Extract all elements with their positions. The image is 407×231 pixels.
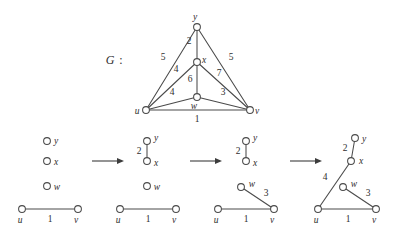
step-4-weight-u-v: 1 <box>346 214 351 224</box>
figure-page: G : <box>0 0 407 231</box>
step-3: 2 3 1 y x w u v <box>214 133 278 225</box>
graph-g: 5 5 2 4 7 6 4 3 1 u v w x <box>135 12 260 124</box>
mst-construction-figure: G : <box>0 0 407 231</box>
step-2-node-y[interactable] <box>144 138 151 145</box>
arrow-3-head <box>315 158 322 164</box>
node-label-v: v <box>255 106 260 116</box>
step-1-nodes <box>19 138 82 213</box>
step-2-nodes <box>117 138 180 213</box>
step-1-node-u[interactable] <box>19 206 26 213</box>
step-4-weight-y-x: 2 <box>343 143 348 153</box>
step-3-node-v[interactable] <box>271 206 278 213</box>
step-2-label-w: w <box>154 182 161 192</box>
step-2: 2 1 y x w u v <box>116 133 180 225</box>
step-2-node-w[interactable] <box>144 183 151 190</box>
graph-caption-label: G <box>106 53 115 67</box>
node-label-u: u <box>135 106 140 116</box>
weight-u-v: 1 <box>195 114 200 124</box>
step-4-node-y[interactable] <box>352 135 359 142</box>
step-3-weight-w-v: 3 <box>264 188 269 198</box>
step-4-label-y: y <box>361 134 367 144</box>
step-1-node-v[interactable] <box>75 206 82 213</box>
node-v[interactable] <box>247 107 254 114</box>
step-3-weight-y-x: 2 <box>236 146 241 156</box>
step-4-weight-w-v: 3 <box>366 188 371 198</box>
step-1-label-u: u <box>18 215 23 225</box>
step-3-label-v: v <box>270 215 275 225</box>
weight-y-v: 5 <box>229 52 234 62</box>
step-4-node-v[interactable] <box>373 206 380 213</box>
node-label-x: x <box>201 55 207 65</box>
step-3-node-y[interactable] <box>243 138 250 145</box>
step-3-weight-u-v: 1 <box>244 214 249 224</box>
step-3-vertex-labels: y x w u v <box>214 133 275 225</box>
step-2-edges <box>120 141 176 209</box>
step-2-label-v: v <box>172 215 177 225</box>
step-3-label-w: w <box>249 179 256 189</box>
step-1-weights: 1 <box>48 214 53 224</box>
step-4-label-v: v <box>372 215 377 225</box>
node-u[interactable] <box>143 107 150 114</box>
weight-u-x: 4 <box>174 64 179 74</box>
step-2-label-x: x <box>153 158 159 168</box>
arrow-1-head <box>117 158 124 164</box>
step-4-weight-u-x: 4 <box>323 172 328 182</box>
weight-w-v: 3 <box>221 87 226 97</box>
step-2-node-v[interactable] <box>173 206 180 213</box>
step-1-label-y: y <box>53 136 59 146</box>
step-2-label-u: u <box>116 215 121 225</box>
arrow-2-head <box>215 158 222 164</box>
arrow-3 <box>290 158 322 164</box>
step-4-node-u[interactable] <box>315 206 322 213</box>
step-4-label-u: u <box>314 215 319 225</box>
step-4-edge-w-v <box>343 187 376 209</box>
step-2-vertex-labels: y x w u v <box>116 133 177 225</box>
step-1-node-x[interactable] <box>44 158 51 165</box>
step-2-weight-y-x: 2 <box>137 146 142 156</box>
graph-g-nodes <box>143 24 254 114</box>
step-4-weights: 2 4 3 1 <box>323 143 371 224</box>
node-x[interactable] <box>194 59 201 66</box>
node-y[interactable] <box>194 24 201 31</box>
node-label-w: w <box>191 101 198 111</box>
graph-caption-colon: : <box>119 53 122 67</box>
step-3-node-w[interactable] <box>238 184 245 191</box>
step-4-label-w: w <box>351 179 358 189</box>
step-1-label-w: w <box>54 182 61 192</box>
step-1-weight-u-v: 1 <box>48 214 53 224</box>
step-2-node-x[interactable] <box>144 158 151 165</box>
step-1-node-y[interactable] <box>44 138 51 145</box>
node-label-y: y <box>192 12 198 22</box>
step-2-node-u[interactable] <box>117 206 124 213</box>
weight-x-w: 6 <box>188 74 193 84</box>
step-1-label-v: v <box>74 215 79 225</box>
step-4-node-w[interactable] <box>340 184 347 191</box>
weight-u-y: 5 <box>161 52 166 62</box>
step-4-label-x: x <box>358 156 364 166</box>
weight-x-y: 2 <box>187 36 192 46</box>
step-1-label-x: x <box>53 157 59 167</box>
step-2-label-y: y <box>153 133 159 143</box>
step-3-node-x[interactable] <box>243 158 250 165</box>
step-2-weight-u-v: 1 <box>146 214 151 224</box>
arrow-1 <box>92 158 124 164</box>
step-3-label-x: x <box>252 158 258 168</box>
weight-x-v: 7 <box>217 68 222 78</box>
step-3-edges <box>218 141 274 209</box>
step-1-node-w[interactable] <box>44 183 51 190</box>
step-1: 1 y x w u v <box>18 136 82 225</box>
step-3-label-y: y <box>252 133 258 143</box>
step-4-node-x[interactable] <box>348 158 355 165</box>
step-3-label-u: u <box>214 215 219 225</box>
node-w[interactable] <box>194 94 201 101</box>
step-3-edge-w-v <box>241 187 274 209</box>
step-1-vertex-labels: y x w u v <box>18 136 79 225</box>
step-3-node-u[interactable] <box>215 206 222 213</box>
graph-caption: G : <box>106 53 123 67</box>
arrow-2 <box>190 158 222 164</box>
weight-u-w: 4 <box>170 87 175 97</box>
step-4: 2 4 3 1 y x w u v <box>314 134 380 225</box>
